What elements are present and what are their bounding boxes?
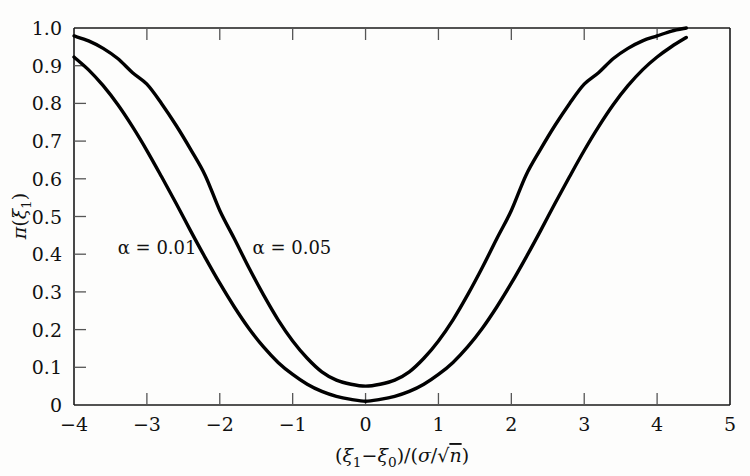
x-tick-label-4: 4 <box>651 413 663 435</box>
x-tick-label-0: 0 <box>360 413 372 435</box>
y-axis-ticks <box>74 66 86 368</box>
svg-text:(ξ1−ξ0)/(σ/√n): (ξ1−ξ0)/(σ/√n) <box>335 444 469 470</box>
y-tick-label-0.6: 0.6 <box>32 168 62 190</box>
axes-frame <box>74 28 730 405</box>
x-title-radical: √ <box>437 444 450 466</box>
y-tick-label-0.3: 0.3 <box>32 281 62 303</box>
x-title-n: n <box>449 444 461 466</box>
series-label-alpha-005: α = 0.05 <box>253 237 332 258</box>
x-title-closeslash: )/( <box>397 444 418 466</box>
data-curves <box>74 28 686 401</box>
y-tick-label-0.8: 0.8 <box>32 92 62 114</box>
x-tick-label-2: 2 <box>505 413 517 435</box>
power-curve-chart: 00.10.20.30.40.50.60.70.80.91.0 −4−3−2−1… <box>0 0 750 476</box>
x-tick-label-−3: −3 <box>133 413 161 435</box>
x-tick-label-1: 1 <box>432 413 444 435</box>
svg-text:π(ξ1): π(ξ1) <box>8 193 34 241</box>
y-title-close: ) <box>8 193 30 200</box>
series-annotations: α = 0.01 α = 0.05 <box>118 237 332 258</box>
x-axis-tick-labels: −4−3−2−1012345 <box>60 413 736 435</box>
x-title-sub1: 1 <box>353 454 362 470</box>
x-tick-label-5: 5 <box>724 413 736 435</box>
y-axis-tick-labels: 00.10.20.30.40.50.60.70.80.91.0 <box>32 17 62 416</box>
y-tick-label-0.7: 0.7 <box>32 130 62 152</box>
y-tick-label-0.4: 0.4 <box>32 243 62 265</box>
x-tick-label-−2: −2 <box>206 413 234 435</box>
y-title-pi: π <box>8 226 30 240</box>
curve-alpha-005 <box>74 28 686 386</box>
curve-alpha-001 <box>74 37 686 401</box>
y-axis-title: π(ξ1) <box>8 193 34 241</box>
y-title-sub: 1 <box>18 200 34 209</box>
y-tick-label-0.5: 0.5 <box>32 206 62 228</box>
y-title-open: ( <box>8 219 30 226</box>
x-tick-label-3: 3 <box>578 413 590 435</box>
x-title-open: ( <box>335 444 342 466</box>
x-tick-label-−1: −1 <box>279 413 307 435</box>
y-tick-label-0.9: 0.9 <box>32 55 62 77</box>
series-label-alpha-001: α = 0.01 <box>118 237 197 258</box>
y-tick-label-0.2: 0.2 <box>32 319 62 341</box>
x-title-close: ) <box>462 444 469 466</box>
x-title-sub0: 0 <box>388 454 397 470</box>
x-axis-title: (ξ1−ξ0)/(σ/√n) <box>335 444 469 470</box>
figure-container: 00.10.20.30.40.50.60.70.80.91.0 −4−3−2−1… <box>0 0 750 476</box>
y-tick-label-1.0: 1.0 <box>32 17 62 39</box>
x-title-minus: − <box>362 444 378 466</box>
x-tick-label-−4: −4 <box>60 413 88 435</box>
x-title-sigma: σ <box>418 444 432 466</box>
y-tick-label-0.1: 0.1 <box>32 356 62 378</box>
